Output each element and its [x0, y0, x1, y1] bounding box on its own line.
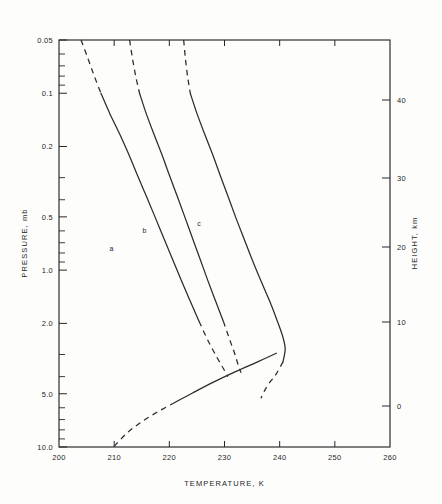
figure-container: 200210220230240250260 0.050.10.20.51.02.…	[0, 0, 442, 504]
x-tick-label: 210	[107, 453, 120, 462]
curve-b-dashed-head	[130, 40, 140, 93]
x-axis-title: TEMPERATURE, K	[184, 479, 265, 488]
y-tick-label: 0.5	[42, 213, 53, 222]
curve-label-c: c	[197, 220, 201, 227]
x-tick-label: 260	[383, 453, 396, 462]
profile-curves	[81, 40, 285, 446]
y-tick-label: 1.0	[42, 266, 53, 275]
x-tick-label: 240	[273, 453, 286, 462]
curve-c	[190, 93, 285, 362]
y-tick-label: 5.0	[42, 390, 53, 399]
curve-a-dashed-head	[81, 40, 101, 93]
y-axis-tick-labels: 0.050.10.20.51.02.05.010.0	[37, 36, 53, 452]
curve-c-dashed-head	[184, 40, 191, 93]
curve-a-dashed-tail	[199, 321, 228, 376]
curve-lower-troposphere-lapse	[175, 353, 277, 402]
y-tick-label: 0.1	[42, 89, 53, 98]
height-axis-title: HEIGHT, km	[410, 217, 419, 270]
height-axis-tick-labels: 010203040	[397, 96, 406, 411]
y-tick-label: 0.2	[42, 142, 53, 151]
x-axis-ticks-bottom	[114, 441, 335, 447]
temperature-pressure-profile-chart: 200210220230240250260 0.050.10.20.51.02.…	[0, 0, 442, 504]
height-tick-label: 10	[397, 318, 406, 327]
curve-b-dashed-tail	[223, 321, 241, 372]
x-tick-label: 250	[328, 453, 341, 462]
curve-label-a: a	[109, 245, 113, 252]
curve-b	[140, 93, 224, 321]
x-axis-tick-labels: 200210220230240250260	[52, 453, 396, 462]
plot-frame	[59, 40, 390, 447]
curve-c-dashed-tail	[261, 362, 283, 398]
curve-a	[101, 93, 199, 321]
curve-lower-troposphere-lapse-dashed-tail	[114, 402, 175, 446]
y-axis-ticks-major	[59, 40, 67, 447]
height-tick-label: 0	[397, 402, 401, 411]
x-tick-label: 230	[218, 453, 231, 462]
x-tick-label: 220	[163, 453, 176, 462]
y-tick-label: 0.05	[37, 36, 53, 45]
height-tick-label: 30	[397, 174, 406, 183]
y-tick-label: 10.0	[37, 443, 53, 452]
height-axis-ticks	[382, 100, 390, 406]
x-axis-ticks-top	[114, 40, 335, 46]
y-tick-label: 2.0	[42, 319, 53, 328]
y-axis-title: PRESSURE, mb	[20, 208, 29, 277]
curve-label-b: b	[143, 227, 147, 234]
x-tick-label: 200	[52, 453, 65, 462]
y-axis-ticks-minor	[59, 54, 65, 439]
height-tick-label: 20	[397, 243, 406, 252]
height-tick-label: 40	[397, 96, 406, 105]
